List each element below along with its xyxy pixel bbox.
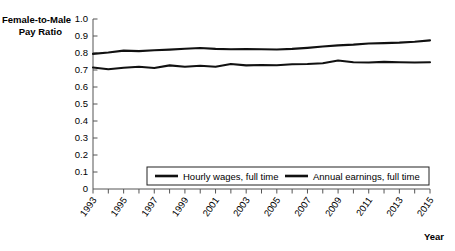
- line-chart-plot: 00.10.20.30.40.50.60.70.80.91.0 19931995…: [0, 0, 455, 251]
- x-axis-tick-label: 1995: [108, 195, 129, 219]
- y-axis-title-line2: Pay Ratio: [2, 26, 62, 38]
- x-axis-tick-label: 2015: [415, 195, 436, 219]
- x-axis-tick-label: 2007: [292, 195, 313, 219]
- legend-label-hourly-wages: Hourly wages, full time: [183, 171, 279, 182]
- x-axis-tick-label: 2005: [261, 195, 282, 219]
- x-axis-tick-label: 2011: [354, 195, 375, 218]
- y-axis-tick-label: 0.8: [75, 47, 88, 58]
- x-axis-title: Year: [400, 231, 444, 243]
- x-axis-tick-label: 2013: [384, 195, 405, 219]
- y-axis-tick-labels: 00.10.20.30.40.50.60.70.80.91.0: [75, 13, 88, 194]
- x-axis-tick-label: 2003: [231, 195, 252, 219]
- y-axis-tick-label: 1.0: [75, 13, 88, 24]
- y-axis-title: Female-to-Male Pay Ratio: [2, 14, 62, 38]
- y-axis-tick-label: 0.7: [75, 64, 88, 75]
- x-axis-tick-labels: 1993199519971999200120032005200720092011…: [78, 195, 436, 219]
- y-axis-tick-label: 0.1: [75, 166, 88, 177]
- y-axis-tick-label: 0.9: [75, 30, 88, 41]
- x-axis-tick-label: 2001: [200, 195, 221, 219]
- x-axis-tick-label: 1997: [139, 195, 160, 219]
- x-axis-tick-label: 2009: [323, 195, 344, 219]
- y-axis-tick-label: 0.3: [75, 132, 88, 143]
- chart-legend: Hourly wages, full time Annual earnings,…: [147, 167, 429, 185]
- y-axis-tick-marks: [93, 19, 98, 172]
- data-series-group: [93, 40, 430, 69]
- x-axis-tick-label: 1999: [169, 195, 190, 219]
- series-line-hourly-wages: [93, 40, 430, 53]
- x-axis-tick-marks: [93, 189, 430, 194]
- series-line-annual-earnings: [93, 60, 430, 69]
- y-axis-tick-label: 0.6: [75, 81, 88, 92]
- legend-label-annual-earnings: Annual earnings, full time: [313, 171, 420, 182]
- y-axis-tick-label: 0.4: [75, 115, 88, 126]
- y-axis-title-line1: Female-to-Male: [2, 14, 62, 26]
- y-axis-tick-label: 0: [83, 183, 88, 194]
- chart-figure: Female-to-Male Pay Ratio Year 00.10.20.3…: [0, 0, 455, 251]
- x-axis-tick-label: 1993: [78, 195, 99, 219]
- y-axis-tick-label: 0.2: [75, 149, 88, 160]
- y-axis-tick-label: 0.5: [75, 98, 88, 109]
